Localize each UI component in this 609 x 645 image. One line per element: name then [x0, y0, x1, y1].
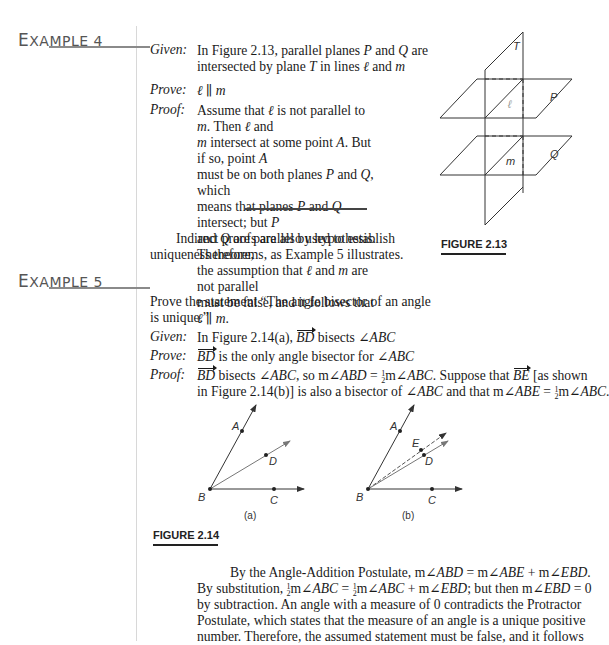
example-5-rule — [49, 287, 150, 289]
given-text: In Figure 2.13, parallel planes P and Q … — [197, 43, 428, 75]
conclusion-line-1: By the Angle-Addition Postulate, m∠ABD =… — [230, 565, 591, 581]
figure-2-13-caption-rule — [441, 253, 506, 255]
given-label-5: Given: — [150, 329, 187, 345]
svg-text:A: A — [389, 420, 397, 432]
prove-label-5: Prove: — [150, 348, 186, 364]
figure-2-14a: A D B C (a) — [198, 405, 304, 521]
intro-line-1: Indirect proofs are also used to establi… — [176, 231, 395, 247]
svg-text:D: D — [425, 455, 433, 467]
margin-divider — [136, 26, 137, 641]
proof-text-5: BD bisects ∠ABC, so m∠ABD = 12m∠ABC. Sup… — [197, 368, 609, 400]
proof-end-rule — [245, 208, 367, 210]
conclusion-line-4: Postulate, which states that the measure… — [197, 613, 585, 629]
proof-label: Proof: — [150, 102, 185, 118]
example-4-rule — [49, 46, 150, 48]
svg-text:B: B — [198, 491, 205, 503]
proof-label-5: Proof: — [150, 367, 185, 383]
figure-2-13-caption: FIGURE 2.13 — [441, 238, 507, 250]
given-text-5: In Figure 2.14(a), BD bisects ∠ABC — [197, 330, 395, 346]
sub-caption-a: (a) — [244, 510, 256, 521]
intro-line-2: uniqueness theorems, as Example 5 illust… — [150, 247, 403, 263]
plane-T-label: T — [513, 40, 521, 52]
figure-2-13-diagram: T P Q ℓ m — [430, 15, 606, 230]
svg-text:C: C — [428, 494, 436, 506]
conclusion-line-2: By substitution, 12m∠ABC = 12m∠ABC + m∠E… — [197, 581, 592, 597]
prove-text: ℓ ∥ m — [197, 83, 226, 99]
example-5-statement-1: Prove the statement “The angle bisector … — [150, 294, 431, 310]
svg-text:B: B — [356, 491, 363, 503]
example-5-statement-2: is unique.” — [150, 310, 209, 326]
svg-text:D: D — [269, 455, 277, 467]
plane-P-label: P — [550, 91, 558, 103]
line-l-label: ℓ — [507, 98, 512, 110]
conclusion-line-5: number. Therefore, the assumed statement… — [197, 629, 584, 645]
given-label: Given: — [150, 42, 187, 58]
figure-2-14-caption: FIGURE 2.14 — [153, 529, 219, 541]
figure-2-14-caption-rule — [153, 544, 218, 546]
svg-text:C: C — [270, 494, 278, 506]
figure-2-14-diagram: A D B C (a) A E D B C (b) — [190, 400, 490, 525]
figure-2-14b: A E D B C (b) — [356, 405, 462, 521]
prove-text-5: BD is the only angle bisector for ∠ABC — [197, 349, 414, 365]
svg-text:A: A — [231, 420, 239, 432]
sub-caption-b: (b) — [402, 510, 414, 521]
svg-text:E: E — [412, 437, 420, 449]
line-m-label: m — [506, 155, 515, 167]
plane-Q-label: Q — [550, 148, 559, 160]
conclusion-line-3: by subtraction. An angle with a measure … — [197, 597, 581, 613]
prove-label: Prove: — [150, 82, 186, 98]
